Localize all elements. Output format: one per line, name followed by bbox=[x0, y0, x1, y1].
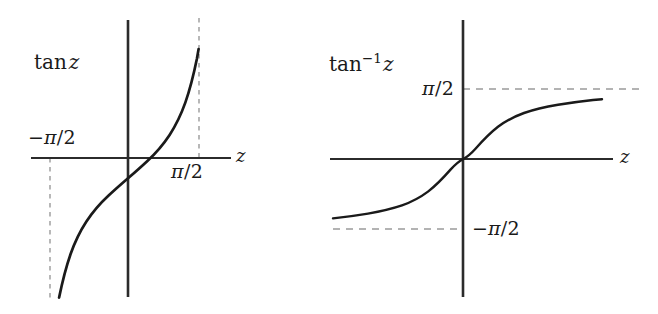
denominator-two: 2 bbox=[64, 126, 76, 148]
left-panel-title: tanz bbox=[34, 52, 79, 72]
left-tick-pos-half-pi: π/2 bbox=[171, 162, 203, 181]
right-x-axis-label: z bbox=[620, 148, 629, 166]
left-title-variable: z bbox=[69, 50, 80, 74]
right-tick-pos-half-pi: π/2 bbox=[422, 79, 454, 98]
fraction-slash: / bbox=[435, 77, 442, 99]
fraction-slash: / bbox=[56, 126, 63, 148]
pi-symbol: π bbox=[44, 126, 57, 148]
fraction-slash: / bbox=[184, 160, 191, 182]
left-title-function: tan bbox=[34, 50, 67, 74]
right-title-function: tan bbox=[329, 52, 362, 76]
left-tick-neg-half-pi: −π/2 bbox=[28, 128, 76, 147]
right-title-exponent: −1 bbox=[362, 50, 382, 66]
right-tick-neg-half-pi: −π/2 bbox=[472, 219, 520, 238]
left-x-axis-label: z bbox=[236, 147, 245, 165]
neg-sign: − bbox=[472, 217, 488, 239]
right-title-variable: z bbox=[383, 52, 394, 76]
neg-sign: − bbox=[28, 126, 44, 148]
fraction-slash: / bbox=[500, 217, 507, 239]
denominator-two: 2 bbox=[442, 77, 454, 99]
denominator-two: 2 bbox=[508, 217, 520, 239]
pi-symbol: π bbox=[422, 77, 435, 99]
plot-canvas bbox=[0, 0, 658, 314]
figure-container: tanz −π/2 π/2 z tan−1z π/2 −π/2 z bbox=[0, 0, 658, 314]
denominator-two: 2 bbox=[191, 160, 203, 182]
right-panel-title: tan−1z bbox=[329, 52, 393, 74]
pi-symbol: π bbox=[488, 217, 501, 239]
pi-symbol: π bbox=[171, 160, 184, 182]
